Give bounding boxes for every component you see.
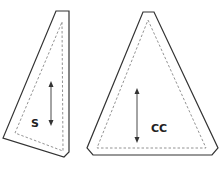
piece-cc: CC — [87, 12, 218, 155]
piece-cc-label: CC — [151, 122, 167, 135]
piece-s: S — [3, 11, 69, 157]
piece-s-label: S — [31, 117, 39, 130]
piece-s-cut-line — [3, 11, 69, 157]
pattern-diagram: S CC — [0, 0, 219, 176]
